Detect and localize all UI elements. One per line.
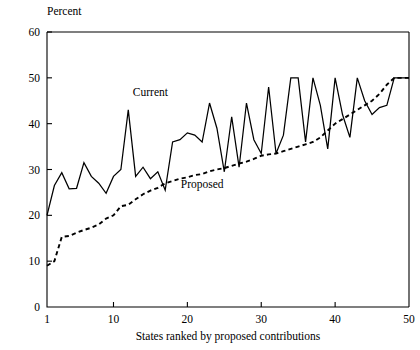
y-tick-label-10: 10 [29, 255, 41, 267]
series-annotations: CurrentProposed [133, 86, 224, 191]
y-tick-label-50: 50 [29, 72, 41, 84]
y-tick-label-0: 0 [34, 301, 40, 313]
series-line-current [47, 78, 409, 216]
y-axis-title-group: Percent [47, 5, 82, 17]
y-axis-ticks: 0102030405060 [29, 26, 53, 313]
x-tick-label-1: 1 [44, 313, 50, 325]
plot-frame [47, 32, 409, 307]
axis-lines [47, 32, 409, 307]
x-tick-label-20: 20 [182, 313, 194, 325]
chart-figure: Percent 0102030405060 11020304050 Curren… [0, 0, 420, 350]
y-tick-label-60: 60 [29, 26, 41, 38]
y-tick-label-20: 20 [29, 209, 41, 221]
x-tick-label-40: 40 [329, 313, 341, 325]
y-tick-label-40: 40 [29, 118, 41, 130]
x-tick-label-30: 30 [255, 313, 267, 325]
x-axis-ticks: 11020304050 [44, 302, 415, 325]
chart-svg: Percent 0102030405060 11020304050 Curren… [0, 0, 420, 350]
series-line-proposed [47, 78, 409, 266]
annotation-proposed: Proposed [181, 178, 224, 191]
x-tick-label-10: 10 [108, 313, 120, 325]
x-tick-label-50: 50 [403, 313, 415, 325]
annotation-current: Current [133, 86, 169, 98]
x-axis-title: States ranked by proposed contributions [136, 330, 321, 343]
y-axis-title: Percent [47, 5, 82, 17]
y-tick-label-30: 30 [29, 164, 41, 176]
